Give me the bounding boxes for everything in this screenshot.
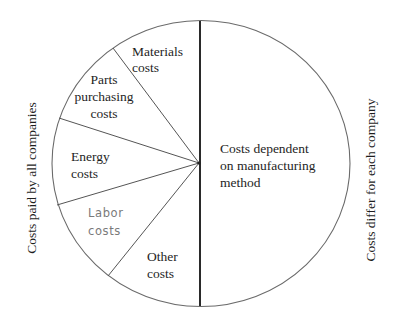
label-line: Costs dependent (220, 141, 309, 156)
label-line: Materials (132, 44, 183, 59)
right-side-label: Costs differ for each company (363, 98, 378, 261)
label-line: on manufacturing (220, 158, 316, 173)
label-line: purchasing (74, 89, 133, 104)
center-point (197, 161, 200, 164)
pie-chart-figure: Materials costs Parts purchasing costs E… (0, 0, 398, 321)
left-side-label: Costs paid by all companies (24, 102, 39, 253)
label-line: Labor (88, 206, 124, 220)
label-line: Parts (91, 72, 118, 87)
label-line: costs (88, 224, 121, 238)
label-line: Energy (71, 149, 110, 164)
label-line: costs (132, 60, 159, 75)
label-line: Other (147, 249, 178, 264)
label-line: costs (91, 106, 118, 121)
pie-chart: Materials costs Parts purchasing costs E… (0, 0, 398, 321)
label-line: method (220, 175, 261, 190)
label-line: costs (147, 266, 174, 281)
label-line: costs (71, 166, 98, 181)
